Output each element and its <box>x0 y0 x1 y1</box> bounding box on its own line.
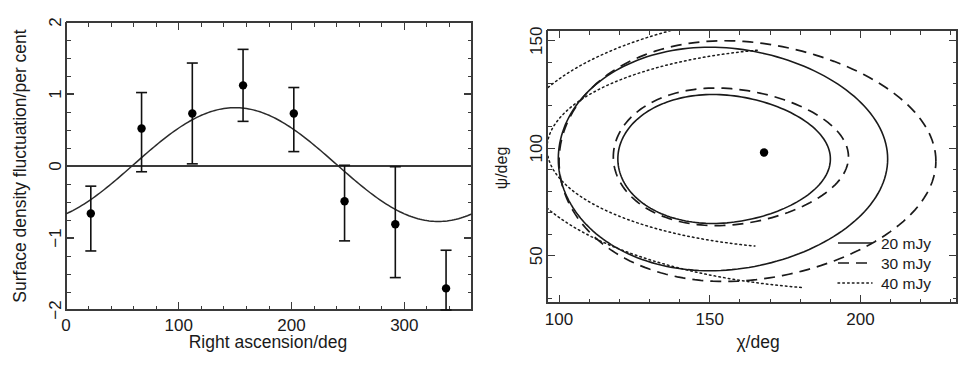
left-x-axis-title: Right ascension/deg <box>189 332 348 352</box>
y-axis-tick-label: 2 <box>46 17 65 26</box>
right-y-axis-title: ψ/deg <box>493 147 510 190</box>
legend-label: 40 mJy <box>881 275 931 292</box>
contour-30mjy-inner <box>613 88 848 226</box>
legend-label: 30 mJy <box>881 255 931 272</box>
data-point-marker <box>188 109 196 117</box>
legend-label: 20 mJy <box>881 235 931 252</box>
y-axis-tick-label: 100 <box>527 134 546 162</box>
data-point-marker <box>87 209 95 217</box>
data-point-group <box>85 186 96 251</box>
right-x-axis-title: χ/deg <box>736 332 779 352</box>
y-axis-tick-label: 150 <box>527 27 546 55</box>
left-chart-svg: 0100200300−2−1012 Right ascension/deg Su… <box>0 0 486 367</box>
right-chart-panel: 10015020050100150 χ/deg ψ/deg 20 mJy30 m… <box>486 0 972 367</box>
y-axis-tick-label: 50 <box>527 246 546 265</box>
data-point-group <box>441 250 452 310</box>
figure-root: 0100200300−2−1012 Right ascension/deg Su… <box>0 0 972 367</box>
contour-30mjy-outer <box>559 41 936 282</box>
left-chart-panel: 0100200300−2−1012 Right ascension/deg Su… <box>0 0 486 367</box>
data-point-marker <box>442 284 450 292</box>
data-point-marker <box>239 81 247 89</box>
contour-group <box>514 9 936 288</box>
data-point-group <box>187 63 198 164</box>
right-chart-svg: 10015020050100150 χ/deg ψ/deg 20 mJy30 m… <box>486 0 972 367</box>
x-axis-tick-label: 100 <box>545 310 573 329</box>
x-axis-tick-label: 200 <box>846 310 874 329</box>
data-point-marker <box>137 124 145 132</box>
y-axis-tick-label: −1 <box>46 228 65 247</box>
y-axis-tick-label: −2 <box>46 300 65 319</box>
y-axis-tick-label: 1 <box>46 89 65 98</box>
contour-40mjy-outer <box>514 9 808 288</box>
data-point-marker <box>391 220 399 228</box>
x-axis-tick-label: 300 <box>390 316 418 335</box>
data-point-group <box>339 165 350 241</box>
data-point-group <box>288 88 299 152</box>
y-axis-tick-label: 0 <box>46 161 65 170</box>
data-point-group <box>136 93 147 172</box>
fit-curve <box>66 108 472 222</box>
contour-20mjy-inner <box>618 94 831 223</box>
data-point-group <box>238 49 249 121</box>
left-plot-area: 0100200300−2−1012 <box>46 17 472 335</box>
data-point-marker <box>290 109 298 117</box>
contour-20mjy-outer <box>558 47 887 271</box>
x-axis-tick-label: 150 <box>696 310 724 329</box>
best-fit-point-marker <box>760 148 768 156</box>
data-point-marker <box>340 197 348 205</box>
data-point-group <box>390 167 401 278</box>
legend: 20 mJy30 mJy40 mJy <box>838 235 931 292</box>
left-y-axis-title: Surface density fluctuation/per cent <box>10 29 30 302</box>
